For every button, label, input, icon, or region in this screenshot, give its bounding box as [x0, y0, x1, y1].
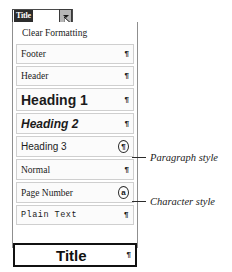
pilcrow-icon: ¶ [125, 96, 129, 104]
leader-line [132, 157, 146, 158]
leader-line [132, 201, 146, 202]
callout-label: Character style [150, 196, 215, 207]
pilcrow-icon: ¶ [125, 72, 129, 80]
style-item-footer[interactable]: Footer ¶ [16, 44, 134, 64]
style-item-label: Heading 2 [21, 117, 122, 131]
style-item-label: Page Number [21, 188, 115, 198]
style-item-label: Header [21, 71, 122, 81]
style-item-plain-text[interactable]: Plain Text ¶ [16, 205, 134, 225]
character-a-circled-icon: a [118, 186, 129, 199]
style-item-normal[interactable]: Normal ¶ [16, 159, 134, 180]
chevron-down-icon [63, 15, 69, 18]
style-item-label: Clear Formatting [22, 28, 130, 38]
style-item-label: Normal [21, 165, 122, 175]
pilcrow-circled-icon: ¶ [118, 140, 129, 153]
style-item-heading-1[interactable]: Heading 1 ¶ [16, 88, 134, 111]
style-combo-value: Title [14, 10, 33, 22]
character-a-glyph: a [118, 186, 129, 199]
callout-character-style: Character style [132, 196, 215, 207]
pilcrow-icon: ¶ [125, 50, 129, 58]
callout-paragraph-style: Paragraph style [132, 152, 218, 163]
style-item-label: Heading 3 [21, 141, 115, 152]
style-item-label: Footer [21, 49, 122, 59]
style-item-heading-3[interactable]: Heading 3 ¶ [16, 136, 134, 157]
style-dropdown-list[interactable]: Clear Formatting Footer ¶ Header ¶ Headi… [12, 22, 138, 248]
pilcrow-icon: ¶ [127, 251, 131, 259]
pilcrow-icon: ¶ [125, 120, 129, 128]
style-item-heading-2[interactable]: Heading 2 ¶ [16, 113, 134, 134]
pilcrow-icon: ¶ [125, 166, 129, 174]
pilcrow-glyph: ¶ [118, 140, 129, 153]
style-item-clear-formatting[interactable]: Clear Formatting [16, 24, 134, 42]
style-item-page-number[interactable]: Page Number a [16, 182, 134, 203]
style-item-label: Title [19, 247, 124, 264]
style-item-title[interactable]: Title ¶ [13, 243, 137, 267]
style-item-header[interactable]: Header ¶ [16, 66, 134, 86]
style-combo-dropdown-button[interactable] [59, 9, 72, 23]
pilcrow-icon: ¶ [124, 211, 129, 219]
style-item-label: Plain Text [21, 210, 121, 220]
style-item-label: Heading 1 [21, 92, 122, 108]
callout-label: Paragraph style [150, 152, 218, 163]
